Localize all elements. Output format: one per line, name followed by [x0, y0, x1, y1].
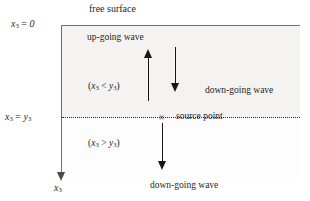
source-depth-rel: = [13, 111, 24, 122]
x3-axis-line [61, 25, 62, 177]
down-going-wave-label-upper: down-going wave [205, 85, 273, 95]
cond2-relation: > [99, 138, 109, 148]
x3-axis-arrowhead-icon [57, 172, 65, 181]
free-surface-label: free surface [89, 3, 136, 14]
down-going-wave-upper-arrow-shaft [175, 47, 177, 84]
free-surface-line [61, 25, 300, 26]
source-point-marker-icon: × [157, 113, 166, 122]
region-condition-above-source: (x3 < y3) [88, 81, 120, 91]
up-going-wave-arrow-shaft [148, 58, 150, 101]
cond2-close-paren: ) [117, 138, 120, 148]
source-point-label: source point [176, 111, 223, 121]
up-going-wave-label: up-going wave [87, 32, 144, 42]
x3-axis-label: x3 [54, 182, 62, 193]
down-going-wave-lower-arrow-shaft [162, 123, 164, 162]
depth-label-source-level: x3 = y3 [5, 111, 31, 122]
source-depth-value-sub: 3 [28, 115, 31, 122]
wave-propagation-diagram: × free surface x3 = 0 x3 = y3 up-going w… [0, 0, 310, 201]
down-going-wave-label-lower: down-going wave [150, 180, 218, 190]
cond-relation: < [99, 81, 109, 91]
region-condition-below-source: (x3 > y3) [88, 138, 120, 148]
cond-close-paren: ) [117, 81, 120, 91]
depth-label-free-surface: x3 = 0 [11, 18, 35, 29]
up-arrow-icon [144, 49, 152, 58]
down-arrow-icon-upper [171, 83, 179, 92]
depth-label-rel: = [19, 18, 30, 29]
down-arrow-icon-lower [158, 161, 166, 170]
depth-label-value: 0 [30, 18, 35, 29]
axis-label-sub: 3 [58, 186, 61, 193]
